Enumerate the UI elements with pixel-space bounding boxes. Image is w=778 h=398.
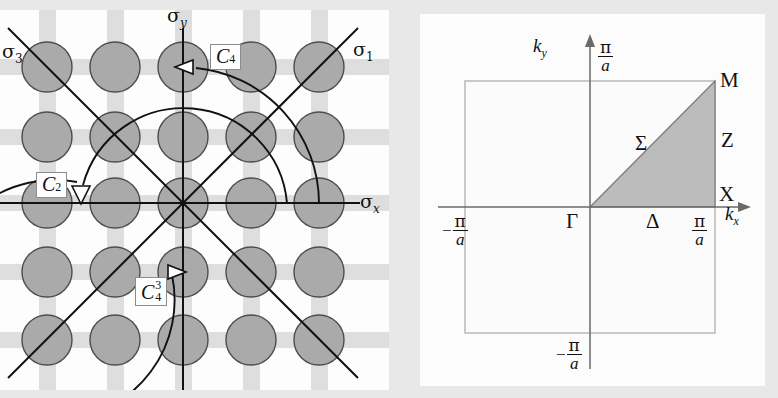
ky-positive-tick: πa xyxy=(598,38,613,75)
line-delta: Δ xyxy=(646,211,660,232)
brillouin-zone-diagram: ky kx πa −πa πa −πa Γ M X Δ Σ Z xyxy=(420,14,765,386)
ky-arrowhead xyxy=(585,34,595,47)
right-panel-canvas xyxy=(420,14,765,386)
c4c-base: C xyxy=(141,281,154,303)
point-m: M xyxy=(720,70,739,91)
line-sigma: Σ xyxy=(635,133,647,154)
arrowheads xyxy=(72,60,193,279)
sigma-3-label: σ3 xyxy=(2,42,23,65)
sigma-1-label: σ1 xyxy=(353,40,374,63)
c4-subscript: 4 xyxy=(229,52,235,66)
c2-base: C xyxy=(42,173,55,195)
sigma-x-label: σx xyxy=(360,192,380,215)
figure-root: σ3 σ1 σx σy C4 C2 C34 xyxy=(0,0,778,398)
left-panel-canvas xyxy=(0,10,389,390)
sigma-y-label: σy xyxy=(167,6,187,29)
c4c-subscript: 4 xyxy=(155,291,161,303)
ky-axis-label: ky xyxy=(533,36,547,59)
sigma-1-subscript: 1 xyxy=(366,50,374,64)
c4-base: C xyxy=(216,45,229,67)
square-lattice-symmetry-diagram: σ3 σ1 σx σy C4 C2 C34 xyxy=(0,10,389,390)
line-z: Z xyxy=(721,130,734,151)
c2-subscript: 2 xyxy=(55,180,61,194)
kx-axis-label: kx xyxy=(725,204,739,227)
kx-negative-tick: −πa xyxy=(442,212,468,249)
c2-label: C2 xyxy=(36,172,67,198)
kx-positive-tick: πa xyxy=(692,212,707,249)
kx-arrowhead xyxy=(738,202,751,212)
sigma-3-subscript: 3 xyxy=(15,52,23,66)
sigma-x-subscript: x xyxy=(373,202,380,216)
point-gamma: Γ xyxy=(566,211,578,232)
sigma-y-subscript: y xyxy=(180,16,187,30)
c4-cubed-label: C34 xyxy=(135,277,167,306)
point-x: X xyxy=(719,184,734,205)
ky-negative-tick: −πa xyxy=(556,336,582,373)
c4-label: C4 xyxy=(210,44,241,70)
